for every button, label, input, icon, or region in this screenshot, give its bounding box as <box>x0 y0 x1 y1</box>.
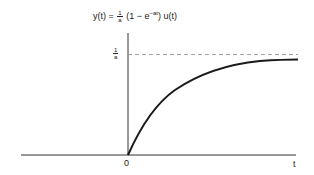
step-response-plot <box>0 0 314 175</box>
title-expr: (1 − e <box>126 11 149 21</box>
x-tick-zero: 0 <box>124 158 129 168</box>
y-tick-one-over-a: 1 a <box>113 47 118 60</box>
x-axis-label: t <box>293 159 296 169</box>
title-step: ) u(t) <box>158 11 177 21</box>
response-curve <box>128 60 298 156</box>
title-exponent: −at <box>149 10 158 16</box>
title-fraction: 1 a <box>117 10 122 23</box>
title-lhs: y(t) = <box>93 11 114 21</box>
chart-title: y(t) = 1 a (1 − e−at) u(t) <box>93 10 177 23</box>
